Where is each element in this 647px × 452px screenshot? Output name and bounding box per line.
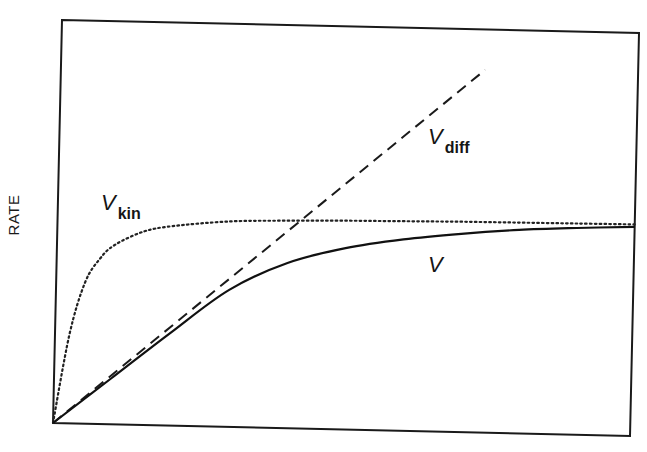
vdiff-label-main: V	[428, 124, 443, 149]
y-axis-label: RATE	[5, 195, 22, 236]
v-label: V	[428, 252, 443, 278]
vkin-label: Vkin	[101, 190, 141, 216]
vdiff-line	[53, 70, 485, 423]
vkin-curve	[53, 221, 635, 423]
v-curve	[53, 227, 635, 423]
vdiff-label-sub: diff	[445, 139, 470, 156]
vdiff-label: Vdiff	[428, 124, 470, 150]
v-label-main: V	[428, 252, 443, 277]
rate-chart	[0, 0, 647, 452]
vkin-label-main: V	[101, 190, 116, 215]
vkin-label-sub: kin	[118, 205, 141, 222]
